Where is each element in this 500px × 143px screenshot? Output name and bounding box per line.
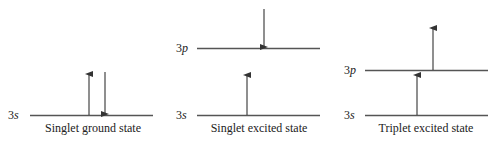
caption-singlet-excited-state: Singlet excited state: [211, 122, 308, 135]
orbital-letter: s: [182, 108, 187, 122]
orbital-letter: s: [350, 108, 355, 122]
orbital-letter: p: [182, 41, 188, 55]
orbital-letter: p: [350, 63, 356, 77]
level-label-3p: 3p: [344, 64, 356, 76]
caption-triplet-excited-state: Triplet excited state: [379, 122, 474, 135]
orbital-letter: s: [14, 108, 19, 122]
level-label-3s: 3s: [344, 109, 355, 121]
panel-singlet-ground: [30, 72, 153, 116]
level-label-3s: 3s: [8, 109, 19, 121]
caption-singlet-ground-state: Singlet ground state: [45, 122, 141, 135]
electron-configuration-diagram: 3s 3p 3s 3p 3s Singlet ground state Sing…: [0, 0, 500, 143]
panel-singlet-excited: [197, 9, 320, 116]
level-label-3s: 3s: [176, 109, 187, 121]
panel-triplet-excited: [365, 28, 488, 116]
level-label-3p: 3p: [176, 42, 188, 54]
